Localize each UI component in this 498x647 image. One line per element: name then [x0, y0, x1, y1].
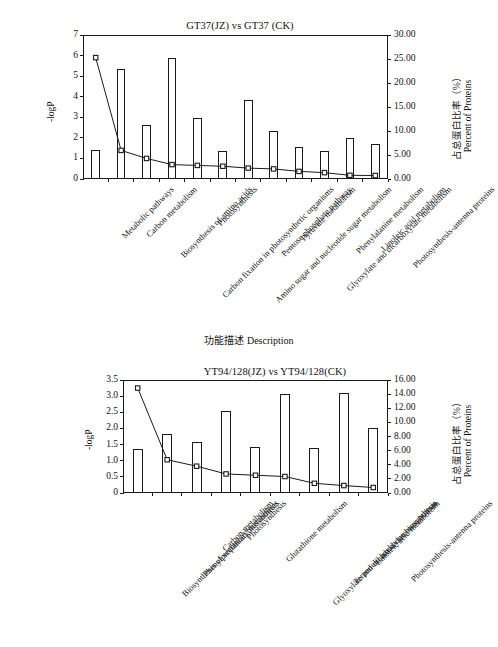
y-axis-tick — [80, 35, 84, 36]
bar — [250, 447, 260, 493]
bar — [244, 100, 253, 179]
y2-axis-tick — [388, 59, 392, 60]
x-axis-tick — [133, 179, 134, 183]
bar — [339, 393, 349, 493]
y2-axis-title-bottom: 占总蛋白比率（%） Percent of Proteins — [452, 397, 474, 485]
y-axis-title-bottom: -logP — [84, 429, 94, 450]
x-axis-tick — [299, 493, 300, 497]
y2-axis-title-cn-bottom: 占总蛋白比率（%） — [452, 397, 462, 485]
x-axis-tick — [159, 179, 160, 183]
y-axis-tick — [120, 412, 124, 413]
x-axis-category-label: Glutathione metabolism — [284, 499, 349, 564]
x-axis-tick — [337, 179, 338, 183]
kegg-enrichment-figure: GT37(JZ) vs GT37 (CK) -logP 占总蛋白比率（%） Pe… — [0, 0, 498, 647]
chart-title-bottom: YT94/128(JZ) vs YT94/128(CK) — [150, 366, 400, 377]
y2-axis-tick — [388, 408, 392, 409]
y-axis-tick — [80, 117, 84, 118]
y-axis-tick-label: 2 — [73, 133, 78, 143]
y-axis-tick — [80, 158, 84, 159]
x-axis-tick — [286, 179, 287, 183]
bar — [309, 448, 319, 493]
y2-axis-tick-label: 4.00 — [394, 460, 411, 470]
x-axis-tick — [210, 179, 211, 183]
y2-axis-tick — [388, 131, 392, 132]
y2-axis-tick — [388, 107, 392, 108]
bar — [168, 58, 177, 179]
y-axis-tick-label: 0 — [73, 174, 78, 184]
y2-axis-tick-label: 16.00 — [394, 375, 415, 385]
y2-axis-title-cn-top: 占总蛋白比率（%） — [452, 72, 462, 160]
y-axis-tick — [120, 444, 124, 445]
y-axis-tick — [120, 396, 124, 397]
y2-axis-title-top: 占总蛋白比率（%） Percent of Proteins — [452, 72, 474, 160]
bar — [368, 428, 378, 493]
y-axis-tick — [80, 179, 84, 180]
bar — [269, 131, 278, 179]
x-axis-tick — [270, 493, 271, 497]
y-axis-tick-label: 7 — [73, 30, 78, 40]
y2-axis-tick — [388, 464, 392, 465]
y2-axis-tick-label: 0.00 — [394, 488, 411, 498]
y2-axis-tick-label: 0.00 — [394, 174, 411, 184]
y2-axis-tick-label: 20.00 — [394, 78, 415, 88]
y2-axis-tick-label: 15.00 — [394, 102, 415, 112]
bar — [346, 138, 355, 179]
y2-axis-tick-label: 12.00 — [394, 403, 415, 413]
chart-panel-bottom: YT94/128(JZ) vs YT94/128(CK) -logP 占总蛋白比… — [0, 355, 498, 647]
y2-axis-tick-label: 5.00 — [394, 150, 411, 160]
x-axis-tick — [388, 179, 389, 183]
y-axis-tick-label: 2.0 — [106, 423, 118, 433]
chart-title-top: GT37(JZ) vs GT37 (CK) — [120, 20, 360, 31]
x-axis-tick — [181, 493, 182, 497]
y-axis-tick — [120, 493, 124, 494]
x-axis-tick — [388, 493, 389, 497]
y2-axis-tick-label: 25.00 — [394, 54, 415, 64]
x-axis-tick — [211, 493, 212, 497]
bar — [371, 144, 380, 179]
y-axis-tick — [80, 55, 84, 56]
y2-axis-tick — [388, 422, 392, 423]
x-axis-tick — [358, 493, 359, 497]
y-axis-tick — [120, 428, 124, 429]
y-axis-tick — [80, 137, 84, 138]
bar — [218, 151, 227, 179]
y-axis-tick-label: 3 — [73, 112, 78, 122]
bar — [133, 449, 143, 493]
x-axis-tick — [152, 493, 153, 497]
y2-axis-tick — [388, 478, 392, 479]
x-axis-tick — [235, 179, 236, 183]
y2-axis-tick-label: 10.00 — [394, 417, 415, 427]
y2-axis-tick — [388, 436, 392, 437]
y2-axis-tick — [388, 450, 392, 451]
x-axis-tick — [362, 179, 363, 183]
y-axis-tick-label: 2.5 — [106, 407, 118, 417]
y-axis-tick-label: 3.5 — [106, 375, 118, 385]
y2-axis-title-en-top: Percent of Proteins — [463, 80, 473, 152]
y-axis-title-top: -logP — [46, 101, 56, 122]
y-axis-tick-label: 3.0 — [106, 391, 118, 401]
y2-axis-tick-label: 14.00 — [394, 389, 415, 399]
y-axis-tick — [80, 76, 84, 77]
y-axis-tick-label: 1.5 — [106, 440, 118, 450]
x-axis-category-label: Photosynthesis — [216, 185, 259, 228]
y2-axis-tick — [388, 380, 392, 381]
x-axis-tick — [184, 179, 185, 183]
bar — [280, 394, 290, 493]
y2-axis-tick-label: 6.00 — [394, 446, 411, 456]
y2-axis-tick-label: 10.00 — [394, 126, 415, 136]
bar — [193, 118, 202, 179]
y2-axis-tick — [388, 394, 392, 395]
bar — [142, 125, 151, 179]
y-axis-tick-label: 4 — [73, 92, 78, 102]
y-axis-tick-label: 0.5 — [106, 472, 118, 482]
bar — [162, 434, 172, 493]
bar — [221, 411, 231, 493]
y-axis-tick-label: 6 — [73, 51, 78, 61]
y-axis-tick — [120, 460, 124, 461]
y2-axis-tick — [388, 35, 392, 36]
y2-axis-tick — [388, 155, 392, 156]
y-axis-tick-label: 1 — [73, 153, 78, 163]
x-axis-title: 功能描述 Description — [0, 332, 498, 347]
x-axis-tick — [311, 179, 312, 183]
y2-axis-tick — [388, 83, 392, 84]
